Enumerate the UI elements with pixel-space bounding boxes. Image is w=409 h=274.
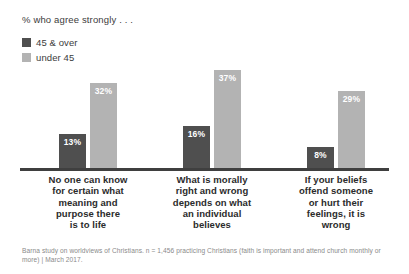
axis-baseline (20, 168, 389, 171)
category-label: If your beliefsoffend someoneor hurt the… (277, 174, 395, 230)
bar-45-and-over: 16% (183, 126, 210, 168)
bar-group: 13%32% (58, 62, 118, 168)
bar-under-45: 37% (214, 70, 241, 168)
source-footnote: Barna study on worldviews of Christians.… (22, 246, 394, 264)
category-label-row: No one can knowfor certain whatmeaning a… (0, 174, 409, 236)
bar-value-label: 32% (90, 86, 117, 96)
bar-value-label: 37% (214, 73, 241, 83)
category-label: What is morallyright and wrongdepends on… (150, 174, 274, 230)
legend-swatch-dark (22, 38, 31, 47)
bar-group: 8%29% (306, 62, 366, 168)
category-label: No one can knowfor certain whatmeaning a… (26, 174, 150, 230)
bar-value-label: 16% (183, 129, 210, 139)
chart-title: % who agree strongly . . . (22, 14, 133, 25)
bar-value-label: 8% (307, 150, 334, 160)
chart-container: % who agree strongly . . . 45 & over und… (0, 0, 409, 274)
legend-label-45-and-over: 45 & over (36, 37, 78, 48)
bar-value-label: 13% (59, 137, 86, 147)
bar-under-45: 32% (90, 83, 117, 168)
legend-item-45-and-over: 45 & over (22, 36, 78, 49)
plot-area: 13%32%16%37%8%29% (0, 62, 409, 168)
bar-45-and-over: 13% (59, 134, 86, 168)
bar-45-and-over: 8% (307, 147, 334, 168)
bar-group: 16%37% (182, 62, 242, 168)
legend-swatch-light (22, 53, 31, 62)
bar-value-label: 29% (338, 94, 365, 104)
bar-under-45: 29% (338, 91, 365, 168)
